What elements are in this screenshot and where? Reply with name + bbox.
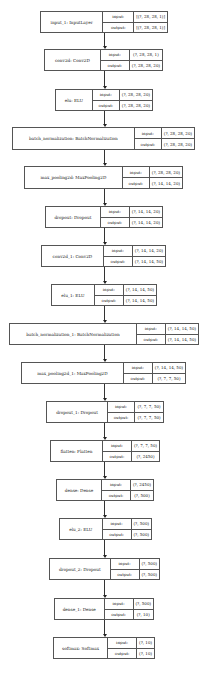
output-row: output:(?, 7, 7, 50) [124,373,185,384]
input-shape: (?, 14, 14, 50) [153,363,185,373]
output-shape: (?, 500) [132,530,151,540]
output-row: output:(?, 14, 14, 20) [101,217,162,228]
layer-node: batch_normalization: BatchNormalizationi… [12,127,195,150]
input-label: input: [104,246,133,256]
layer-node: softmax: Softmaxinput:(?, 10)output:(?, … [53,637,155,659]
edge-line [104,71,105,86]
edge-line [104,384,105,398]
edge-line [104,189,105,203]
input-label: input: [95,285,124,295]
input-row: input:(?, 14, 14, 20) [101,207,162,217]
output-label: output: [103,452,132,462]
input-shape: (?, 500) [132,519,151,529]
output-row: output:(?, 500) [102,490,153,501]
input-shape: (?, 28, 28, 20) [150,167,182,177]
input-row: input:(?, 10) [108,638,154,648]
layer-node: dropout_2: Dropoutinput:(?, 500)output:(… [49,558,160,580]
output-shape: (?, 14, 14, 20) [150,178,182,188]
input-label: input: [102,480,131,490]
input-label: input: [105,599,134,609]
input-row: input:(?, 7, 7, 50) [103,441,159,451]
layer-name: flatten: Flatten [51,441,103,461]
output-row: output:(?, 14, 14, 50) [137,334,198,345]
output-shape: [(?, 28, 28, 1)] [134,23,167,33]
output-label: output: [103,23,134,33]
layer-node: elu: ELUinput:(?, 28, 28, 20)output:(?, … [55,89,153,111]
input-label: input: [108,402,135,412]
output-label: output: [101,61,130,71]
output-shape: (?, 14, 14, 50) [124,296,156,306]
output-label: output: [137,335,166,345]
input-label: input: [103,519,132,529]
layer-node: max_pooling2d_1: MaxPooling2Dinput:(?, 1… [21,362,186,384]
input-row: input:(?, 500) [103,519,151,529]
output-row: output:(?, 28, 28, 20) [135,138,194,149]
output-label: output: [135,139,162,149]
output-row: output:(?, 500) [103,529,151,540]
input-label: input: [101,50,130,60]
input-label: input: [135,128,162,138]
layer-name: dropout_2: Dropout [50,559,111,579]
input-shape: (?, 7, 7, 50) [132,441,159,451]
output-shape: (?, 14, 14, 50) [133,257,165,267]
edge-line [104,306,105,320]
output-label: output: [104,257,133,267]
layer-node: elu_1: ELUinput:(?, 14, 14, 50)output:(?… [51,284,157,306]
input-label: input: [137,324,166,334]
layer-name: max_pooling2d_1: MaxPooling2D [22,363,124,383]
output-row: output:(?, 14, 14, 20) [123,177,182,188]
edge-line [104,501,105,515]
input-row: input:(?, 500) [111,559,159,569]
input-shape: [(?, 28, 28, 1)] [134,12,167,22]
input-label: input: [93,90,120,100]
edge-line [104,33,105,46]
input-shape: (?, 14, 14, 50) [166,324,198,334]
layer-node: conv2d_1: Conv2Dinput:(?, 14, 14, 20)out… [41,245,166,267]
output-label: output: [124,374,153,384]
input-shape: (?, 500) [140,559,159,569]
input-shape: (?, 28, 28, 1) [130,50,162,60]
output-row: output:(?, 28, 28, 20) [101,60,162,71]
output-row: output:(?, 28, 28, 20) [93,100,152,111]
output-label: output: [103,530,132,540]
output-shape: (?, 28, 28, 20) [120,101,152,111]
input-shape: (?, 14, 14, 20) [130,207,162,217]
layer-node: dropout: Dropoutinput:(?, 14, 14, 20)out… [45,206,163,228]
input-row: input:[(?, 28, 28, 1)] [103,12,167,22]
layer-name: elu: ELU [56,90,93,110]
layer-node: dropout_1: Dropoutinput:(?, 7, 7, 50)out… [46,401,164,423]
output-shape: (?, 7, 7, 50) [135,413,163,423]
layer-name: max_pooling2d: MaxPooling2D [25,167,123,188]
output-shape: (?, 2450) [132,452,159,462]
edge-line [104,423,105,437]
input-row: input:(?, 28, 28, 20) [135,128,194,138]
input-label: input: [108,638,137,648]
input-row: input:(?, 14, 14, 50) [95,285,156,295]
layer-node: elu_2: ELUinput:(?, 500)output:(?, 500) [59,518,152,540]
edge-line [104,267,105,281]
output-shape: (?, 500) [131,491,153,501]
layer-node: flatten: Flatteninput:(?, 7, 7, 50)outpu… [50,440,160,462]
output-shape: (?, 10) [134,610,153,620]
output-row: output:[(?, 28, 28, 1)] [103,22,167,33]
edge-line [104,345,105,359]
input-row: input:(?, 14, 14, 20) [104,246,165,256]
input-shape: (?, 10) [137,638,154,648]
edge-line [104,540,105,555]
input-label: input: [124,363,153,373]
output-shape: (?, 500) [140,570,159,580]
output-label: output: [102,491,131,501]
input-row: input:(?, 28, 28, 20) [93,90,152,100]
output-shape: (?, 7, 7, 50) [153,374,185,384]
output-shape: (?, 10) [137,649,154,659]
output-row: output:(?, 10) [105,609,153,620]
layer-node: input_1: InputLayerinput:[(?, 28, 28, 1)… [40,11,168,33]
input-row: input:(?, 14, 14, 50) [137,324,198,334]
output-row: output:(?, 500) [111,569,159,580]
output-label: output: [105,610,134,620]
layer-name: batch_normalization_1: BatchNormalizatio… [10,324,137,344]
layer-node: max_pooling2d: MaxPooling2Dinput:(?, 28,… [24,166,183,189]
input-row: input:(?, 2450) [102,480,153,490]
edge-line [104,620,105,634]
input-shape: (?, 28, 28, 20) [120,90,152,100]
